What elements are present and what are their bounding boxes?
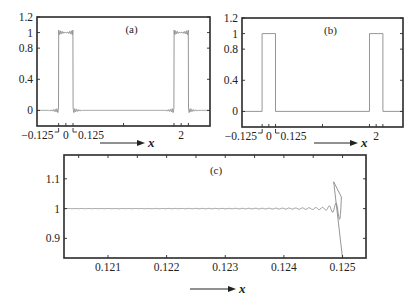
x-axis-label-b: x (360, 135, 368, 150)
x-bracket-b (258, 129, 262, 133)
x-tick-label-b: −0.125 (225, 130, 258, 142)
x-axis-label-a: x (147, 135, 155, 150)
x-tick-label-a: 0 (63, 129, 69, 141)
x-tick-label-b: 0.125 (281, 130, 307, 142)
x-arrow-head-icon-a (137, 140, 145, 146)
x-tick-label-c: 0.123 (212, 261, 238, 273)
y-tick-label-a: 1 (27, 27, 33, 39)
x-tick-label-c: 0.124 (271, 261, 297, 273)
x-bracket-a (55, 128, 59, 132)
y-tick-label-a: 0.8 (19, 42, 34, 54)
x-arrow-head-icon-c (228, 286, 236, 292)
panel-b: 1.210.80.40−0.12500.1252(b)x (224, 12, 403, 150)
x-tick-label-b: 2 (373, 130, 379, 142)
x-tick-label-c: 0.122 (154, 261, 180, 273)
y-tick-label-c: 0.9 (46, 232, 61, 244)
x-tick-label-c: 0.121 (95, 261, 121, 273)
panel-label-b: (b) (324, 24, 337, 37)
y-tick-label-b: 0.8 (224, 43, 239, 55)
series-line-b (242, 34, 403, 112)
panel-c: 1.110.90.1210.1220.1230.1240.125(c)x (46, 155, 366, 296)
plot-frame-b (242, 18, 403, 127)
y-tick-label-a: 1.2 (19, 11, 34, 23)
y-tick-label-b: 1 (232, 28, 238, 40)
x-axis-label-c: x (238, 281, 246, 296)
x-tick-label-a: 2 (178, 129, 184, 141)
series-line-c (64, 182, 343, 258)
y-tick-label-b: 0 (232, 105, 238, 117)
figure: 1.210.80.40−0.12500.1252(a)x1.210.80.40−… (0, 0, 419, 305)
x-tick-label-c: 0.125 (330, 261, 356, 273)
x-tick-label-b: 0 (266, 130, 272, 142)
panel-label-c: (c) (210, 164, 223, 177)
y-tick-label-c: 1.1 (46, 173, 61, 185)
y-tick-label-a: 0.4 (19, 73, 34, 85)
panel-a: 1.210.80.40−0.12500.1252(a)x (19, 11, 210, 150)
x-tick-label-a: −0.125 (21, 129, 54, 141)
series-line-a (37, 30, 210, 113)
y-tick-label-b: 1.2 (224, 12, 239, 24)
panel-label-a: (a) (125, 23, 138, 36)
x-bracket-a (73, 128, 77, 132)
x-tick-label-a: 0.125 (78, 129, 104, 141)
x-bracket-b (276, 129, 280, 133)
y-tick-label-a: 0 (27, 104, 33, 116)
x-arrow-head-icon-b (350, 140, 358, 146)
y-tick-label-c: 1 (54, 203, 60, 215)
y-tick-label-b: 0.4 (224, 74, 239, 86)
